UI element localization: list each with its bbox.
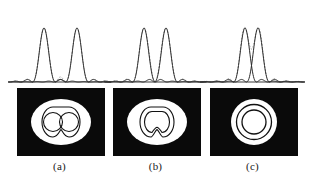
panel-c-image	[200, 88, 305, 156]
panel-b-plot-svg	[104, 4, 207, 88]
panel-c-outer-halo	[231, 99, 277, 145]
panel-c-plot-svg	[200, 4, 305, 88]
panel-b-sum-curve	[104, 28, 207, 82]
panel-b-source2-curve	[104, 28, 207, 82]
resolution-figure: (a) (b)	[0, 0, 313, 189]
panel-b-image	[104, 88, 207, 156]
panel-a-caption: (a)	[8, 160, 111, 172]
panel-c-caption: (c)	[200, 160, 305, 172]
panel-a: (a)	[8, 0, 111, 189]
panel-b: (b)	[104, 0, 207, 189]
panel-b-source1-curve	[104, 28, 207, 82]
panel-a-image	[8, 88, 111, 156]
panel-a-image-svg	[8, 88, 111, 156]
panel-a-sum-curve	[8, 28, 111, 82]
panel-b-image-svg	[104, 88, 207, 156]
panel-a-source2-curve	[8, 28, 111, 82]
panel-c: (c)	[200, 0, 305, 189]
panel-c-profile-plot	[200, 4, 305, 84]
panel-b-caption: (b)	[104, 160, 207, 172]
panel-c-image-svg	[200, 88, 305, 156]
panel-b-profile-plot	[104, 4, 207, 84]
panel-a-plot-svg	[8, 4, 111, 88]
panel-a-source1-curve	[8, 28, 111, 82]
panel-a-profile-plot	[8, 4, 111, 84]
